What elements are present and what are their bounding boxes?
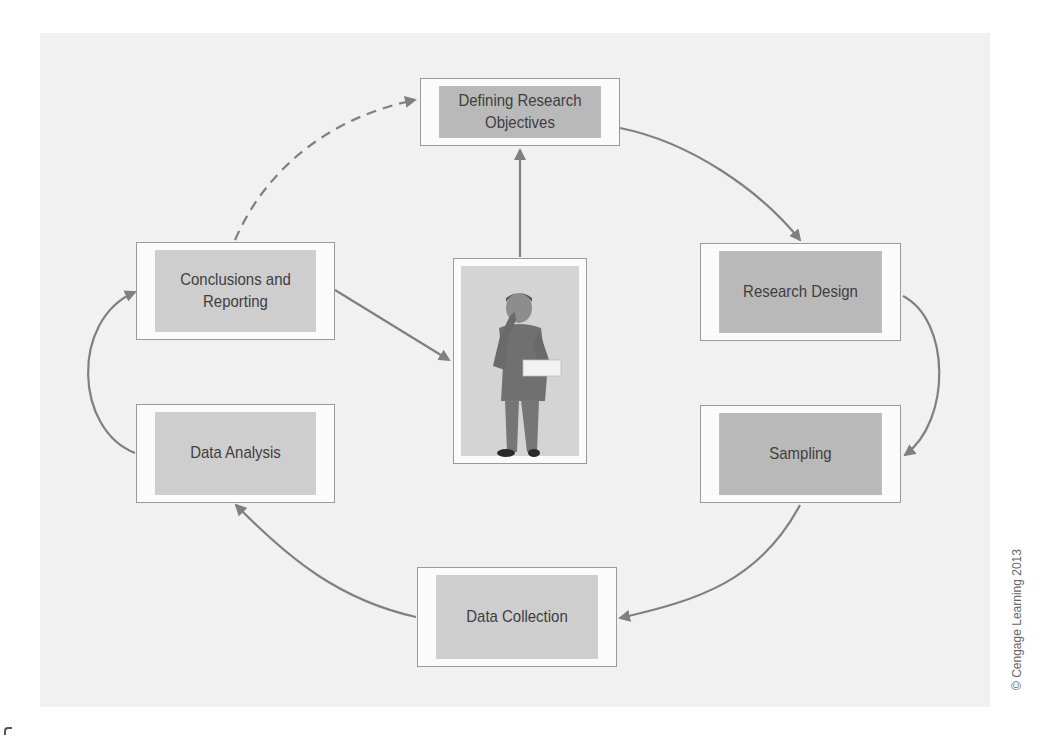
arrow-collection-to-analysis (236, 505, 416, 617)
node-research-design: Research Design (700, 243, 901, 341)
node-data-collection: Data Collection (417, 567, 617, 667)
node-label: Research Design (743, 281, 858, 303)
arrow-conclusions-to-defining-dashed (235, 100, 415, 240)
node-label: Data Collection (466, 606, 567, 628)
arrow-sampling-to-collection (620, 505, 800, 618)
node-defining-research-objectives: Defining Research Objectives (420, 78, 620, 146)
node-label-line2: Reporting (180, 291, 291, 313)
node-label-line1: Conclusions and (180, 269, 291, 291)
node-label: Data Analysis (190, 442, 281, 464)
node-researcher (453, 258, 587, 464)
arrow-analysis-to-conclusions (88, 292, 135, 453)
arrow-conclusions-to-researcher (335, 290, 449, 360)
node-label-line2: Objectives (458, 112, 581, 134)
page-edge-mark (4, 727, 12, 735)
node-data-analysis: Data Analysis (136, 404, 335, 503)
node-label: Sampling (769, 443, 831, 465)
researcher-photo (461, 266, 579, 456)
copyright-credit: © Cengage Learning 2013 (1010, 549, 1024, 690)
node-label-line1: Defining Research (458, 90, 581, 112)
businessman-icon (461, 266, 581, 458)
arrow-design-to-sampling (903, 296, 939, 455)
node-conclusions-and-reporting: Conclusions and Reporting (136, 242, 335, 340)
arrow-defining-to-design (620, 128, 800, 240)
node-sampling: Sampling (700, 405, 901, 503)
